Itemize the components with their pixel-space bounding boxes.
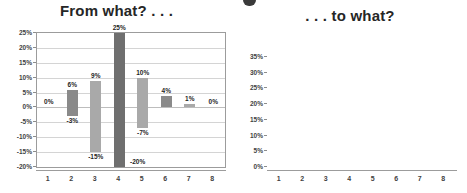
- y-axis-tick-label: 30%: [233, 68, 263, 75]
- gridline: [37, 152, 225, 153]
- y-axis-tick-mark: [264, 166, 267, 167]
- y-axis-tick-mark: [264, 150, 267, 151]
- y-axis-tick-label: 20%: [2, 43, 32, 50]
- figure-canvas: From what? . . . 0%6%-3%9%-15%25%-20%10%…: [0, 0, 467, 193]
- x-axis-tick-label: 7: [410, 175, 430, 182]
- x-axis-tick-label: 5: [132, 175, 152, 182]
- x-axis-tick-label: 4: [108, 175, 128, 182]
- y-axis-tick-mark: [33, 166, 36, 167]
- y-axis-tick-mark: [33, 136, 36, 137]
- y-axis-tick-mark: [33, 77, 36, 78]
- bar-column: [90, 81, 101, 152]
- x-axis-tick-label: 5: [363, 175, 383, 182]
- x-axis-tick-label: 2: [61, 175, 81, 182]
- bar-column: [137, 78, 148, 129]
- y-axis-tick-label: 15%: [2, 58, 32, 65]
- bar-value-label: 1%: [185, 95, 194, 102]
- x-axis-rule: [36, 170, 226, 171]
- y-axis-tick-mark: [264, 87, 267, 88]
- bar-value-label: -15%: [88, 153, 103, 160]
- bar-column: [161, 96, 172, 108]
- x-axis-tick-label: 1: [38, 175, 58, 182]
- bar-value-label: 25%: [113, 24, 126, 31]
- chart-panel-from-what: From what? . . . 0%6%-3%9%-15%25%-20%10%…: [0, 0, 233, 193]
- y-axis-tick-label: 0%: [2, 103, 32, 110]
- y-axis-tick-label: -10%: [2, 133, 32, 140]
- gridline: [37, 48, 225, 49]
- y-axis-tick-label: -20%: [2, 163, 32, 170]
- gridline: [37, 93, 225, 94]
- bar-value-label: -7%: [137, 129, 149, 136]
- y-axis-tick-label: 25%: [233, 84, 263, 91]
- y-axis-tick-label: 10%: [233, 131, 263, 138]
- x-axis-tick-label: 3: [85, 175, 105, 182]
- y-axis-tick-label: 10%: [2, 73, 32, 80]
- x-axis-rule: [267, 170, 457, 171]
- y-axis-tick-mark: [33, 151, 36, 152]
- y-axis-tick-mark: [264, 103, 267, 104]
- chart-title-from-what: From what? . . .: [0, 2, 233, 19]
- bar-value-label: 0%: [44, 98, 53, 105]
- bar-value-label: 9%: [91, 72, 100, 79]
- y-axis-tick-label: 15%: [233, 115, 263, 122]
- y-axis-tick-mark: [33, 32, 36, 33]
- plot-area-from-what: 0%6%-3%9%-15%25%-20%10%-7%4%1%0%: [36, 32, 226, 168]
- y-axis-tick-mark: [33, 106, 36, 107]
- x-axis-tick-label: 2: [292, 175, 312, 182]
- bar-column: [184, 104, 195, 107]
- bar-column: [67, 90, 78, 117]
- bar-value-label: 6%: [68, 81, 77, 88]
- y-axis-tick-label: -15%: [2, 148, 32, 155]
- x-axis-tick-label: 6: [155, 175, 175, 182]
- bar-column: [114, 33, 125, 167]
- gridline: [37, 137, 225, 138]
- x-axis-tick-label: 4: [339, 175, 359, 182]
- y-axis-tick-label: 25%: [2, 29, 32, 36]
- x-axis-tick-label: 8: [202, 175, 222, 182]
- y-axis-tick-label: 35%: [233, 53, 263, 60]
- y-axis-tick-label: -5%: [2, 118, 32, 125]
- y-axis-tick-mark: [33, 92, 36, 93]
- gridline: [37, 63, 225, 64]
- x-axis-tick-label: 7: [179, 175, 199, 182]
- x-axis-tick-label: 8: [433, 175, 453, 182]
- x-axis-tick-label: 1: [269, 175, 289, 182]
- x-axis-tick-label: 3: [316, 175, 336, 182]
- bar-value-label: -3%: [66, 117, 78, 124]
- y-axis-tick-label: 0%: [233, 163, 263, 170]
- y-axis-tick-mark: [264, 72, 267, 73]
- y-axis-tick-mark: [33, 47, 36, 48]
- y-axis-tick-label: 20%: [233, 100, 263, 107]
- bar-value-label: 10%: [136, 69, 149, 76]
- chart-panel-to-what: . . . to what? 0%8%18%29%34%7%4%0% 0%5%1…: [233, 0, 467, 193]
- y-axis-tick-mark: [264, 119, 267, 120]
- x-axis-tick-label: 6: [386, 175, 406, 182]
- y-axis-tick-mark: [264, 135, 267, 136]
- bar-value-label: 4%: [162, 87, 171, 94]
- gridline: [37, 122, 225, 123]
- zero-line: [37, 107, 225, 108]
- chart-title-to-what: . . . to what?: [233, 7, 467, 24]
- y-axis-tick-label: 5%: [233, 147, 263, 154]
- y-axis-tick-mark: [264, 56, 267, 57]
- bar-value-label: 0%: [209, 98, 218, 105]
- y-axis-tick-label: 5%: [2, 88, 32, 95]
- y-axis-tick-mark: [33, 121, 36, 122]
- gridline: [37, 78, 225, 79]
- y-axis-tick-mark: [33, 62, 36, 63]
- bar-value-label: -20%: [130, 158, 145, 165]
